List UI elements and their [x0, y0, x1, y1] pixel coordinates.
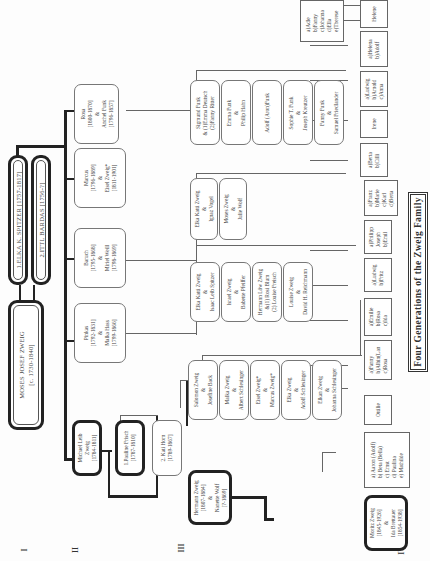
connector	[322, 452, 336, 453]
family-tree-diagram: I II III IV	[0, 0, 430, 561]
children-ludwig-fritz: a)Ludwigb)Fritz	[364, 258, 392, 292]
person-elka-zweig: Elka Zweig&Adolf Schlesinger	[281, 360, 311, 420]
generation-label-2: II	[70, 547, 80, 553]
connector	[322, 452, 323, 472]
connector	[264, 518, 274, 521]
connector	[264, 496, 267, 520]
person-marcus: Marcus[1796-1889]&Eisel Zweig*[1811-1901…	[74, 148, 126, 208]
children-ludwig-arnold-anna: a)Ludwigb)Arnoldc)Anna	[360, 71, 388, 107]
connector	[19, 285, 21, 300]
person-moses-josef-zweig: MOSES JOSEF ZWEIG[c. 1730-1840]	[8, 300, 44, 430]
person-adolf-funk: Adolf (Aron)Funk	[252, 80, 282, 145]
person-pinkas: Pinkas[1792-1831]&Malka Hass[1799-1866]	[74, 303, 126, 363]
connector	[310, 160, 348, 161]
connector	[64, 178, 74, 180]
person-fanny-funk: Fanny Funk&Samuel Friedlander	[314, 80, 344, 145]
person-eisel-zweig: Eisel Zweig*&Marcus Zweig*	[250, 360, 280, 420]
person-moses-zweig: Moses Zweig&Julie Wolf	[219, 178, 247, 240]
connector	[232, 496, 266, 499]
person-elkan-zweig: Elkan Zweig&Johanna Schlesinger	[312, 360, 342, 420]
person-pauline-frisch: 1.Pauline Frisch[1787-1810]	[115, 420, 145, 476]
connector	[202, 355, 362, 356]
connector	[360, 300, 361, 356]
person-michael-leib-zweig: Michael LeibZweig[1784-1811]	[72, 420, 102, 476]
connector	[196, 70, 346, 71]
connector	[126, 260, 196, 261]
generation-label-3: III	[176, 544, 186, 553]
children-philipp-joseph-emil: a)PhilippJosephb)Emil	[364, 220, 392, 254]
connector	[64, 258, 74, 260]
children-fanny-albin-rosa: a)Fannyb)Albin(Lanc)Rosa	[364, 340, 392, 380]
connector	[108, 495, 158, 498]
connector	[64, 340, 74, 342]
connector	[310, 45, 348, 46]
children-of-moritz: a) Aaron (Adolf)b) Beta (Bella)c) Ernstd…	[364, 432, 410, 488]
connector	[33, 285, 35, 300]
person-kati-horn: 2. Kati Horn[1789-1867]	[152, 420, 182, 476]
children-ottilie: Ottilie	[364, 395, 392, 425]
connector	[16, 145, 66, 148]
connector	[126, 333, 196, 334]
connector	[310, 285, 348, 286]
diagram-title: Four Generations of the Zweig Family	[408, 192, 428, 372]
person-elka-katti-zweig-spitzer: Elka Katti Zweig&Isaac Leib Spitzer	[190, 262, 220, 322]
person-sophie-funk: Sophie T. Funk&Joseph Kreutzer	[283, 80, 313, 145]
connector	[126, 110, 196, 111]
person-hermann-low-zweig: Hermann Löw Zweig&(1) Rosi Blum(2) Louis…	[252, 262, 282, 322]
person-salomon-zweig: Salomon Zweig&Josefine Back	[188, 360, 218, 420]
person-baruch: Baruch[1795-1868]&Miriel Weill[1798-1869…	[74, 228, 126, 288]
person-moritz-zweig: Moritz Zweig[1845-1926]&Ida Brettauer[18…	[364, 495, 408, 551]
children-franz-marie-karl-berta: a)Franzb)Mariec)Karld)Berta	[364, 180, 398, 216]
connector	[120, 415, 158, 416]
children-adle-fanny-johanna-ella-therese: a)Adleb)Fannyc)Johannad)Ellae)Therese	[300, 0, 344, 42]
person-malka-zweig: Malka Zweig&Albert Schlesinger	[219, 360, 249, 420]
generation-label-1: I	[19, 549, 29, 552]
connector	[64, 110, 67, 460]
children-emilie-rosa-ida: a)Emilieb)Rosac)Ida	[364, 298, 392, 336]
person-rosa: Rosa[1800-1870]&Anchel Funk[1796-1857]	[74, 84, 119, 144]
connector	[108, 450, 110, 497]
person-elka-katti-zweig-vogel: Elka Katti Zweig&Ignaz Vogel	[190, 178, 218, 240]
children-irene: Irene	[360, 110, 388, 138]
connector	[196, 173, 346, 174]
connector	[310, 320, 348, 321]
person-hermann-zweig: Hermann Zweig[1807-1884]&Nanette Wolf[?-…	[188, 470, 232, 525]
connector	[196, 245, 356, 246]
children-helena-adolf: a)Helenab)Adolf	[360, 31, 388, 67]
connector	[310, 250, 348, 251]
person-ittl-bardas: 2.ITTL BARDAS [1756-?]	[31, 155, 51, 285]
children-berta-cilli: a)Bertab)Cilli	[360, 143, 388, 177]
person-emma-funk: Emma Funk&Philip Hahn	[221, 80, 251, 145]
person-louise-zweig: Louise Zweig&David H. Reichmann	[283, 262, 313, 322]
connector	[64, 110, 74, 112]
person-elka-spitzer: 1.ELKA K. SPITZER [1757-1817]	[8, 155, 28, 285]
connector	[180, 380, 181, 408]
children-helene: Helene	[360, 0, 388, 28]
person-israel-zweig: Israel Zweig&Babette Pfeiffer	[221, 262, 251, 322]
person-sigmund-funk: Sigmund Funk& (1)Emma Deutsch(2)Fanny Ri…	[190, 80, 220, 145]
